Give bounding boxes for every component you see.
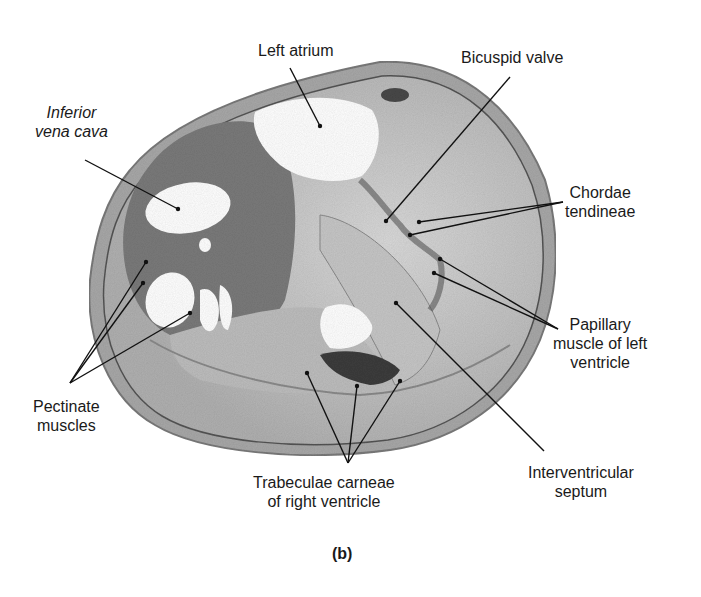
label-bicuspid-valve: Bicuspid valve	[461, 48, 563, 67]
leader-dot	[398, 379, 402, 383]
label-line: muscle of left	[553, 334, 647, 353]
heart-specimen	[89, 62, 555, 455]
label-line: vena cava	[35, 122, 108, 141]
leader-dot	[144, 260, 148, 264]
label-line: Papillary	[553, 315, 647, 334]
leader-dot	[384, 219, 388, 223]
label-chordae-tendineae: Chordaetendineae	[565, 183, 635, 221]
label-line: muscles	[33, 416, 100, 435]
label-interventricular-septum: Interventricularseptum	[528, 463, 634, 501]
leader-dot	[417, 220, 421, 224]
label-line: Inferior	[35, 103, 108, 122]
leader-dot	[394, 301, 398, 305]
label-line: tendineae	[565, 202, 635, 221]
label-left-atrium: Left atrium	[258, 41, 334, 60]
leader-dot	[141, 281, 145, 285]
leader-dot	[355, 384, 359, 388]
label-line: Left atrium	[258, 41, 334, 60]
label-line: ventricle	[553, 353, 647, 372]
label-line: septum	[528, 482, 634, 501]
label-pectinate-muscles: Pectinatemuscles	[33, 397, 100, 435]
label-line: of right ventricle	[253, 492, 395, 511]
leader-dot	[305, 371, 309, 375]
leader-dot	[318, 124, 322, 128]
leader-dot	[438, 257, 442, 261]
figure-caption: (b)	[332, 545, 352, 563]
label-line: Chordae	[565, 183, 635, 202]
label-line: Pectinate	[33, 397, 100, 416]
leader-dot	[432, 271, 436, 275]
label-papillary-muscle: Papillarymuscle of leftventricle	[553, 315, 647, 372]
label-inferior-vena-cava: Inferiorvena cava	[35, 103, 108, 141]
label-line: Bicuspid valve	[461, 48, 563, 67]
leader-dot	[408, 233, 412, 237]
leader-dot	[176, 207, 180, 211]
label-trabeculae-carneae: Trabeculae carneaeof right ventricle	[253, 473, 395, 511]
leader-dot	[188, 311, 192, 315]
label-line: Interventricular	[528, 463, 634, 482]
label-line: Trabeculae carneae	[253, 473, 395, 492]
